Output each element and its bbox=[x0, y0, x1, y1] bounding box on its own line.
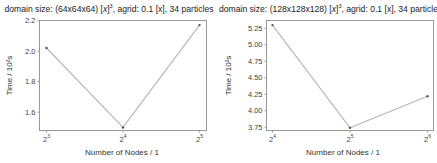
y-tick-label: 2.2 bbox=[25, 16, 35, 25]
series-line bbox=[273, 25, 428, 128]
y-tick-label: 1.8 bbox=[25, 77, 35, 86]
data-point bbox=[45, 47, 47, 49]
y-axis-label: Time / 10²s bbox=[224, 56, 233, 96]
plot-frame bbox=[40, 21, 207, 131]
x-axis: 242526 bbox=[269, 131, 431, 144]
x-axis-label: Number of Nodes / 1 bbox=[85, 148, 159, 157]
y-axis: 3.754.004.254.504.755.005.25 bbox=[248, 24, 267, 132]
x-axis-label: Number of Nodes / 1 bbox=[306, 148, 380, 157]
x-axis: 232425 bbox=[43, 131, 203, 144]
x-tick-label: 26 bbox=[424, 133, 431, 144]
data-point bbox=[198, 24, 200, 26]
data-series bbox=[271, 24, 428, 129]
x-tick-label: 25 bbox=[196, 133, 203, 144]
y-axis-label: Time / 10²s bbox=[5, 56, 14, 96]
y-tick-label: 4.25 bbox=[248, 90, 263, 99]
data-point bbox=[426, 95, 428, 97]
y-tick-label: 4.50 bbox=[248, 73, 263, 82]
y-tick-label: 3.75 bbox=[248, 123, 263, 132]
y-tick-label: 4.00 bbox=[248, 106, 263, 115]
y-tick-label: 4.75 bbox=[248, 57, 263, 66]
x-tick-label: 24 bbox=[269, 133, 276, 144]
plot-frame bbox=[267, 21, 434, 131]
x-tick-label: 23 bbox=[43, 133, 50, 144]
series-line bbox=[47, 25, 200, 127]
data-point bbox=[271, 24, 273, 26]
chart-svg: 3.754.004.254.504.755.005.25 242526 Time… bbox=[219, 0, 437, 163]
chart-panel-128: domain size: (128x128x128) [x]3, agrid: … bbox=[219, 0, 437, 163]
data-series bbox=[45, 24, 200, 129]
data-point bbox=[122, 126, 124, 128]
y-axis: 1.61.82.02.2 bbox=[25, 16, 39, 117]
x-tick-label: 25 bbox=[347, 133, 354, 144]
y-tick-label: 5.25 bbox=[248, 24, 263, 33]
x-tick-label: 24 bbox=[120, 133, 127, 144]
y-tick-label: 2.0 bbox=[25, 47, 35, 56]
data-point bbox=[349, 127, 351, 129]
y-tick-label: 1.6 bbox=[25, 108, 35, 117]
chart-panel-64: domain size: (64x64x64) [x]3, agrid: 0.1… bbox=[0, 0, 218, 163]
chart-svg: 1.61.82.02.2 232425 Time / 10²s Number o… bbox=[0, 0, 218, 163]
y-tick-label: 5.00 bbox=[248, 40, 263, 49]
